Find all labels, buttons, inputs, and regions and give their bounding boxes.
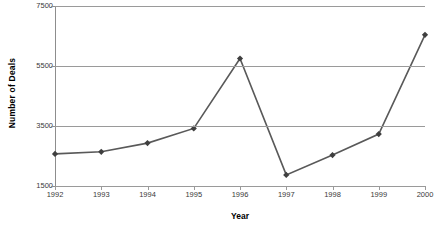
y-axis-tick-label: 5500 [27, 62, 53, 70]
series-line [55, 6, 425, 186]
y-axis-title-text: Number of Deals [7, 58, 17, 129]
gridline [55, 6, 425, 7]
y-axis-tick-label: 3500 [27, 122, 53, 130]
x-axis-tick-label: 1993 [93, 191, 110, 199]
x-axis-title: Year [55, 211, 425, 221]
data-point-marker [98, 149, 104, 155]
data-point-marker [283, 172, 289, 178]
x-axis-tick-labels: 199219931994199519961997199819992000 [55, 191, 425, 205]
x-axis-tick-label: 1995 [185, 191, 202, 199]
y-axis-tick-mark [51, 126, 55, 127]
y-axis-tick-label: 1500 [27, 182, 53, 190]
x-axis-tick-label: 1997 [278, 191, 295, 199]
data-point-marker [422, 32, 428, 38]
data-point-marker [376, 131, 382, 137]
x-axis-tick-label: 2000 [417, 191, 434, 199]
data-point-marker [144, 140, 150, 146]
x-axis-tick-label: 1992 [47, 191, 64, 199]
y-axis-tick-label: 7500 [27, 2, 53, 10]
x-axis-tick-label: 1994 [139, 191, 156, 199]
gridline [55, 66, 425, 67]
line-chart: Number of Deals 1500350055007500 1992199… [0, 0, 443, 236]
y-axis-title: Number of Deals [0, 0, 24, 186]
y-axis-tick-mark [51, 66, 55, 67]
gridline [55, 126, 425, 127]
x-axis-tick-label: 1999 [370, 191, 387, 199]
y-axis-tick-mark [51, 6, 55, 7]
data-point-marker [329, 152, 335, 158]
y-axis-tick-labels: 1500350055007500 [24, 0, 53, 236]
x-axis-tick-label: 1998 [324, 191, 341, 199]
x-axis-tick-label: 1996 [232, 191, 249, 199]
plot-area [55, 6, 425, 186]
